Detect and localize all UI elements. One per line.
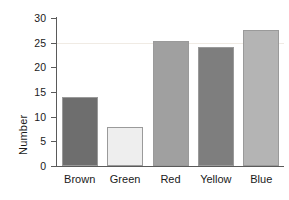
bar-yellow [198, 47, 234, 166]
bar-red [153, 41, 189, 166]
bar-blue [243, 30, 279, 166]
bar-brown [62, 97, 98, 166]
y-tick-label-20: 20 [16, 62, 46, 72]
y-tick-label-10: 10 [16, 112, 46, 122]
y-tick-label-0: 0 [16, 161, 46, 171]
y-axis-title: Number [14, 0, 32, 155]
x-label-green: Green [102, 172, 147, 186]
x-label-brown: Brown [57, 172, 102, 186]
x-label-red: Red [148, 172, 193, 186]
y-tick-label-25: 25 [16, 38, 46, 48]
y-tick-label-5: 5 [16, 136, 46, 146]
bar-chart: Number 051015202530 BrownGreenRedYellowB… [0, 0, 289, 200]
x-label-blue: Blue [239, 172, 284, 186]
y-tick-label-30: 30 [16, 13, 46, 23]
x-label-yellow: Yellow [193, 172, 238, 186]
y-tick-label-15: 15 [16, 87, 46, 97]
bars-layer [57, 18, 284, 166]
x-axis-line [56, 166, 284, 167]
y-tick-0 [51, 166, 57, 167]
bar-green [107, 127, 143, 166]
